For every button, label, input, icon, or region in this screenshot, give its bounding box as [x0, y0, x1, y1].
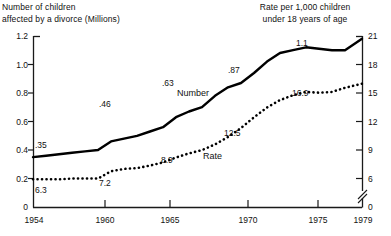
divorce-children-chart: Number of children affected by a divorce…	[0, 0, 391, 236]
series-line-number	[33, 39, 362, 157]
plot-svg	[0, 0, 391, 236]
series-line-rate	[33, 84, 362, 180]
x-axis-ticks	[105, 200, 318, 207]
